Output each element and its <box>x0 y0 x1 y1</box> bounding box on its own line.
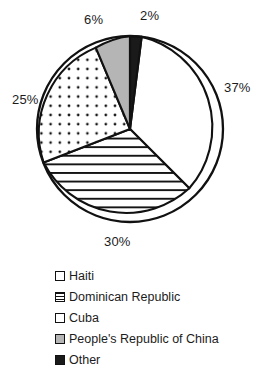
slice-label-haiti: 37% <box>224 80 251 95</box>
legend-label-other: Other <box>69 354 100 367</box>
pie-chart-graphic <box>0 0 271 266</box>
slice-label-dominican-republic: 30% <box>104 234 131 249</box>
slice-label-other: 2% <box>140 8 159 23</box>
legend-item-peoples-republic-of-china: People's Republic of China <box>55 332 219 346</box>
legend-item-dominican-republic: Dominican Republic <box>55 290 180 304</box>
legend-swatch-haiti-icon <box>55 271 65 281</box>
legend-item-other: Other <box>55 353 100 367</box>
legend-label-dominican-republic: Dominican Republic <box>69 291 180 304</box>
legend-swatch-cuba-icon <box>55 313 65 323</box>
legend-swatch-other-icon <box>55 355 65 365</box>
legend-label-cuba: Cuba <box>69 312 99 325</box>
slice-label-peoples-republic-of-china: 25% <box>12 92 39 107</box>
chart-legend: Haiti Dominican Republic Cuba People's R… <box>0 266 271 378</box>
slice-label-cuba: 6% <box>84 12 103 27</box>
legend-swatch-dominican-republic-icon <box>55 292 65 302</box>
legend-swatch-peoples-republic-of-china-icon <box>55 334 65 344</box>
pie-chart: 6% 2% 37% 25% 30% <box>0 0 271 266</box>
legend-label-haiti: Haiti <box>69 270 94 283</box>
legend-item-haiti: Haiti <box>55 269 94 283</box>
legend-label-peoples-republic-of-china: People's Republic of China <box>69 333 219 346</box>
legend-item-cuba: Cuba <box>55 311 99 325</box>
